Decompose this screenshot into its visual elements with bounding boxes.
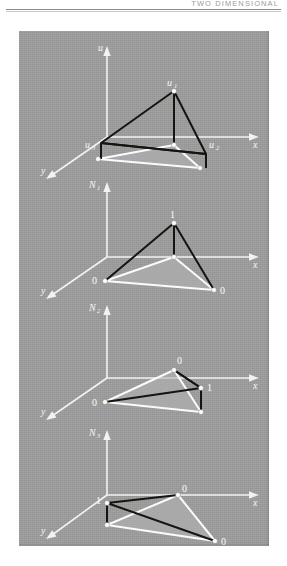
svg-text:1: 1 bbox=[97, 184, 100, 191]
axis-label-x: x bbox=[252, 380, 258, 391]
svg-text:u: u bbox=[85, 139, 90, 150]
node-label-u2: u 2 bbox=[209, 139, 220, 151]
node-label-apex: 1 bbox=[170, 209, 175, 220]
panel-n2: N 2 x y 0 0 1 bbox=[19, 290, 269, 420]
axis-label-u: u bbox=[98, 42, 103, 53]
svg-text:N: N bbox=[88, 179, 97, 190]
svg-text:2: 2 bbox=[216, 144, 220, 151]
running-title: TWO DIMENSIONAL bbox=[191, 0, 279, 8]
axis-label-y: y bbox=[40, 525, 46, 536]
panel-n3: N 3 x y 1 0 0 bbox=[19, 415, 269, 546]
svg-text:3: 3 bbox=[96, 432, 101, 439]
node-label-left: 0 bbox=[92, 275, 97, 286]
axis-label-N1: N 1 bbox=[88, 179, 100, 191]
node-label-u1: u 1 bbox=[167, 77, 177, 89]
svg-text:N: N bbox=[88, 302, 97, 313]
panel-element: u x y u 1 bbox=[19, 35, 269, 165]
node-label-right: 1 bbox=[207, 382, 212, 393]
svg-text:N: N bbox=[88, 427, 97, 438]
node-label-top: 0 bbox=[177, 355, 182, 366]
node-label-top: 0 bbox=[182, 483, 187, 494]
node-label-left: 1 bbox=[96, 495, 101, 506]
axis-label-x: x bbox=[252, 139, 258, 150]
axis-label-x: x bbox=[252, 259, 258, 270]
svg-text:1: 1 bbox=[174, 82, 177, 89]
svg-text:u: u bbox=[167, 77, 172, 88]
node-label-left: 0 bbox=[92, 397, 97, 408]
plate-edge-shadow-right bbox=[266, 31, 269, 546]
page-root: TWO DIMENSIONAL u x y bbox=[0, 0, 287, 566]
svg-text:2: 2 bbox=[97, 307, 101, 314]
axis-label-x: x bbox=[252, 497, 258, 508]
axis-label-N3: N 3 bbox=[88, 427, 101, 439]
svg-text:u: u bbox=[209, 139, 214, 150]
page-header: TWO DIMENSIONAL bbox=[0, 0, 287, 12]
header-rule-bottom bbox=[6, 11, 281, 12]
axis-label-N2: N 2 bbox=[88, 302, 101, 314]
plate-edge-shadow-bottom bbox=[19, 543, 269, 546]
header-rule-top bbox=[6, 9, 281, 10]
panel-n1: N 1 x y 1 0 0 bbox=[19, 165, 269, 295]
figure-plate: u x y u 1 bbox=[19, 31, 269, 546]
